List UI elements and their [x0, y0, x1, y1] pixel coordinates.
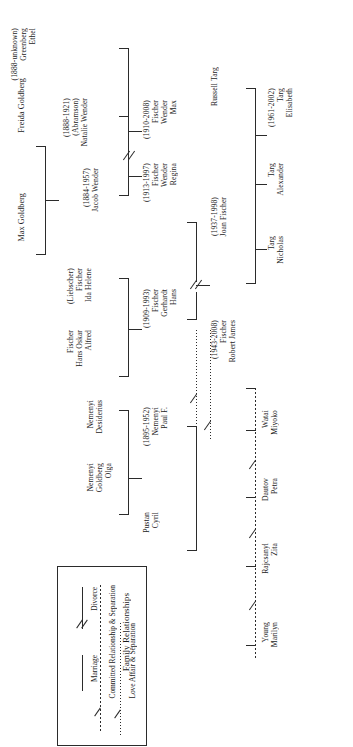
connector-tick-max-goldberg: [36, 254, 46, 255]
person-name-line: Wender: [160, 100, 169, 124]
connector-to-regina: [128, 176, 142, 177]
connector-tick-russell: [246, 88, 256, 89]
connector-to-max-wender-fischer: [128, 131, 142, 132]
connector-tick-miyoko: [246, 430, 256, 431]
person-name-line: Fischer: [151, 289, 160, 312]
person-name-line: Jacob Wender: [91, 168, 100, 212]
person-dates: (1888-unknown): [10, 28, 19, 80]
family-tree-diagram: Max Goldberg Freida Goldberg Ethel Green…: [0, 0, 353, 747]
person-name-line: (Abramson): [71, 98, 80, 136]
person-dates: (1909-1993): [142, 289, 151, 328]
connector-tick-alfred: [119, 376, 129, 377]
legend-label-marriage: Marriage: [90, 655, 99, 682]
connector-to-joan-fischer: [196, 285, 210, 286]
connector-tick-zita: [246, 566, 256, 567]
connector-love-affair-regina-paul: [196, 330, 197, 426]
connector-joan-russell: [255, 88, 256, 283]
person-name-line: Young: [261, 622, 270, 642]
person-name-line: Dautov: [261, 478, 270, 501]
person-name-line: Natalie Wender: [80, 98, 89, 147]
person-name-line: Fischer: [151, 163, 160, 186]
person-name-line: Cyril: [151, 512, 160, 528]
legend-swatch-affair: [120, 623, 121, 735]
person-name-line: Nemenyi: [86, 463, 95, 492]
connector-regina-hans-lower: [196, 292, 197, 320]
connector-tick-ida: [119, 278, 129, 279]
person-name-line: Russell Targ: [210, 67, 219, 106]
person-name-line: Miyoko: [270, 410, 279, 435]
connector-to-hans-gerhardt: [128, 329, 142, 330]
person-name-line: Fischer: [75, 268, 84, 291]
connector-tick-regina-marriage: [187, 222, 197, 223]
person-dates: (1913-1997): [142, 163, 151, 202]
person-name-line: Wender: [160, 163, 169, 187]
person-name-line: (Liebscher): [66, 268, 75, 304]
person-dates: (1961-2002): [267, 88, 276, 127]
person-ida-helene-fischer: Ida Helene Fischer (Liebscher): [66, 268, 93, 304]
person-miyoko-watai: Miyoko Watai: [261, 410, 279, 435]
person-name-line: Zita: [270, 543, 279, 556]
connector-tick-cyril: [187, 550, 197, 551]
person-name-line: Ethel: [28, 28, 37, 45]
connector-paul-cyril: [196, 426, 197, 550]
connector-tick-freida-goldberg: [36, 146, 46, 147]
connector-goldberg-to-child: [45, 200, 59, 201]
person-alfred-fischer: Alfred Hans Oskar Fischer: [66, 330, 93, 367]
person-name-line: Goldberg: [95, 463, 104, 492]
person-name-line: Alfred: [84, 330, 93, 350]
person-name-line: Pustan: [142, 512, 151, 533]
connector-tick-desiderius: [119, 410, 129, 411]
connector-affair-regina-robert: [210, 330, 211, 440]
person-name-line: Targ: [267, 163, 276, 177]
connector-to-paul-nemenyi: [128, 478, 142, 479]
person-name-line: Max: [169, 100, 178, 114]
person-name-line: Nemenyi: [151, 407, 160, 436]
person-name-line: Max Goldberg: [17, 193, 26, 241]
connector-tick-marilyn: [246, 645, 256, 646]
person-name-line: Regina: [169, 163, 178, 185]
person-name-line: Alexander: [276, 163, 285, 196]
person-regina-fischer: Regina Wender Fischer (1913-1997): [142, 163, 178, 202]
person-elisabeth-targ: Elisabeth Targ (1961-2002): [267, 88, 294, 127]
person-dates: (1888-1921): [62, 98, 71, 137]
connector-nemenyi-couple: [128, 410, 129, 514]
person-name-line: Olga: [104, 463, 113, 478]
legend-swatch-marriage: [82, 655, 83, 691]
person-max-wender-fischer: Max Wender Fischer (1910-2008): [142, 100, 178, 139]
person-nicholas-targ: Nicholas Targ: [267, 236, 285, 264]
legend-label-affair: Love Affair & Separation: [128, 623, 137, 699]
person-name-line: Hans: [169, 289, 178, 305]
person-ethel-greenberg: Ethel Greenberg (1888-unknown): [10, 28, 37, 80]
person-name-line: Hans Oskar: [75, 330, 84, 367]
connector-tick-joan: [246, 283, 256, 284]
connector-to-elisabeth-targ: [255, 135, 267, 136]
person-joan-fischer: Joan Fischer (1937-1998): [210, 197, 228, 236]
connector-to-alexander-targ: [255, 184, 267, 185]
person-dates: (1937-1998): [210, 197, 219, 236]
person-name-line: Desiderius: [95, 400, 104, 433]
person-dates: (1910-2008): [142, 100, 151, 139]
connector-robert-partners-spine: [255, 388, 256, 658]
person-name-line: Elisabeth: [285, 88, 294, 117]
person-jacob-wender: Jacob Wender (1884-1957): [82, 168, 100, 212]
person-robert-james-fischer: Robert James Fischer (1943-2008): [210, 320, 237, 362]
person-name-line: Fischer: [219, 320, 228, 343]
person-name-line: Nicholas: [276, 236, 285, 264]
person-name-line: Fischer: [66, 330, 75, 353]
connector-tick-robert-fischer: [246, 388, 256, 389]
person-freida-goldberg: Freida Goldberg: [17, 78, 26, 133]
person-russell-targ: Russell Targ: [210, 67, 219, 106]
connector-tick-natalie: [119, 116, 129, 117]
person-max-goldberg: Max Goldberg: [17, 193, 26, 241]
connector-tick-jacob: [119, 195, 129, 196]
person-olga-goldberg-nemenyi: Olga Goldberg Nemenyi: [86, 463, 113, 492]
person-hans-gerhardt-fischer: Hans Gerhardt Fischer (1909-1993): [142, 289, 178, 328]
person-dates: (1943-2008): [210, 320, 219, 359]
person-name-line: Targ: [267, 236, 276, 250]
person-marilyn-young: Marilyn Young: [261, 622, 279, 647]
connector-to-nicholas-targ: [255, 249, 267, 250]
legend-swatch-committed: [100, 585, 101, 733]
connector-wender-spine: [128, 48, 129, 195]
person-name-line: Fischer: [151, 100, 160, 123]
connector-tick-paul: [187, 426, 197, 427]
